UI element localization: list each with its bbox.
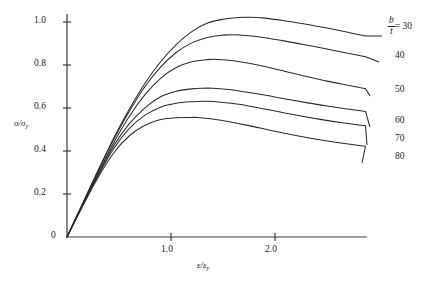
axes-group (67, 14, 367, 237)
fraction-b-over-t: b t (388, 16, 395, 36)
x-axis-title: ε/εy (197, 260, 209, 271)
curve-label-bt-60: 60 (395, 115, 405, 125)
y-tick-label-0.4: 0.4 (34, 144, 46, 154)
curve-bt-80 (67, 117, 365, 237)
ticks-group (63, 22, 275, 241)
figure-container: 00.20.40.60.81.0 1.02.0 σ/σy ε/εy b t = … (0, 0, 429, 289)
curve-label-bt-80: 80 (395, 151, 405, 161)
x-tick-label-2.0: 2.0 (265, 244, 277, 254)
curve-label-bt-70: 70 (395, 133, 405, 143)
series-key-b-over-t: b t = 30 (388, 16, 412, 36)
leader-line-bt-50 (365, 89, 370, 96)
fraction-denominator: t (388, 26, 395, 37)
chart-canvas (0, 0, 429, 289)
y-axis-title: σ/σy (14, 118, 28, 129)
leader-line-bt-70 (365, 126, 367, 145)
x-axis-title-subscript: y (207, 264, 210, 271)
leader-lines-group (362, 36, 382, 163)
curves-group (67, 17, 365, 237)
leader-line-bt-60 (365, 111, 370, 127)
curve-bt-40 (67, 35, 365, 237)
curve-label-bt-50: 50 (395, 84, 405, 94)
series-key-equals: = 30 (395, 21, 412, 31)
curve-bt-70 (67, 101, 365, 237)
y-tick-label-0.8: 0.8 (34, 58, 46, 68)
curve-label-bt-40: 40 (395, 50, 405, 60)
y-tick-label-0.2: 0.2 (34, 187, 46, 197)
y-tick-label-0: 0 (51, 230, 56, 240)
fraction-numerator: b (388, 16, 395, 26)
x-tick-label-1.0: 1.0 (161, 244, 173, 254)
curve-bt-60 (67, 88, 365, 237)
y-axis-title-subscript: y (25, 122, 28, 129)
leader-line-bt-40 (365, 57, 379, 62)
y-tick-label-0.6: 0.6 (34, 101, 46, 111)
y-tick-label-1.0: 1.0 (34, 15, 46, 25)
curve-bt-30 (67, 17, 365, 237)
leader-line-bt-80 (362, 146, 365, 163)
